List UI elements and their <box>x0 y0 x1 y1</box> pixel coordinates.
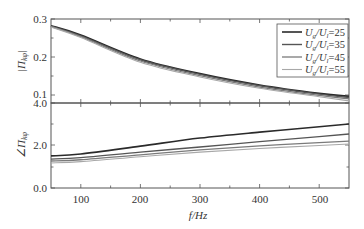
top-y-axis-label: |Πkφ| <box>15 50 29 72</box>
xtick-200: 200 <box>132 193 149 205</box>
xtick-400: 400 <box>252 193 269 205</box>
xtick-300: 300 <box>192 193 209 205</box>
legend: Ug/Ul=25Ug/Ul=35Ug/Ul=45Ug/Ul=55 <box>277 24 348 77</box>
top-ytick-0.3: 0.3 <box>33 13 47 25</box>
series-line-1 <box>51 124 349 156</box>
bottom-plot-frame <box>51 103 349 188</box>
top-ytick-0.2: 0.2 <box>33 51 47 63</box>
svg-text:|Πkφ|: |Πkφ| <box>15 50 29 72</box>
bottom-panel-series <box>51 124 349 163</box>
svg-text:∠Πkφ: ∠Πkφ <box>15 131 29 158</box>
bottom-ytick-0.0: 0.0 <box>33 182 47 194</box>
bottom-y-axis-label: ∠Πkφ <box>15 131 29 158</box>
xtick-100: 100 <box>73 193 90 205</box>
series-line-3 <box>51 141 349 161</box>
chart-figure: 0.3 0.2 0.1 4.0 2.0 0.0 100 200 300 400 … <box>0 0 364 229</box>
xtick-500: 500 <box>312 193 329 205</box>
bottom-ytick-4.0: 4.0 <box>33 97 47 109</box>
x-axis-label: f/Hz <box>189 209 208 221</box>
bottom-ytick-2.0: 2.0 <box>33 139 47 151</box>
